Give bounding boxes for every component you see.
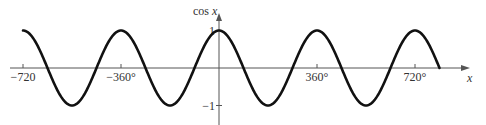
x-tick-label: 720° [404, 70, 427, 84]
x-tick-label: −720 [11, 70, 36, 84]
x-axis-label: x [466, 71, 473, 85]
y-tick-label: −1 [202, 99, 215, 113]
x-tick-label: −360° [106, 70, 136, 84]
axes [10, 13, 470, 125]
y-axis-label: cos x [193, 4, 218, 18]
cosine-chart: −720−360°360°720° 1−1 cos x x [0, 0, 486, 125]
x-tick-label: 360° [306, 70, 329, 84]
